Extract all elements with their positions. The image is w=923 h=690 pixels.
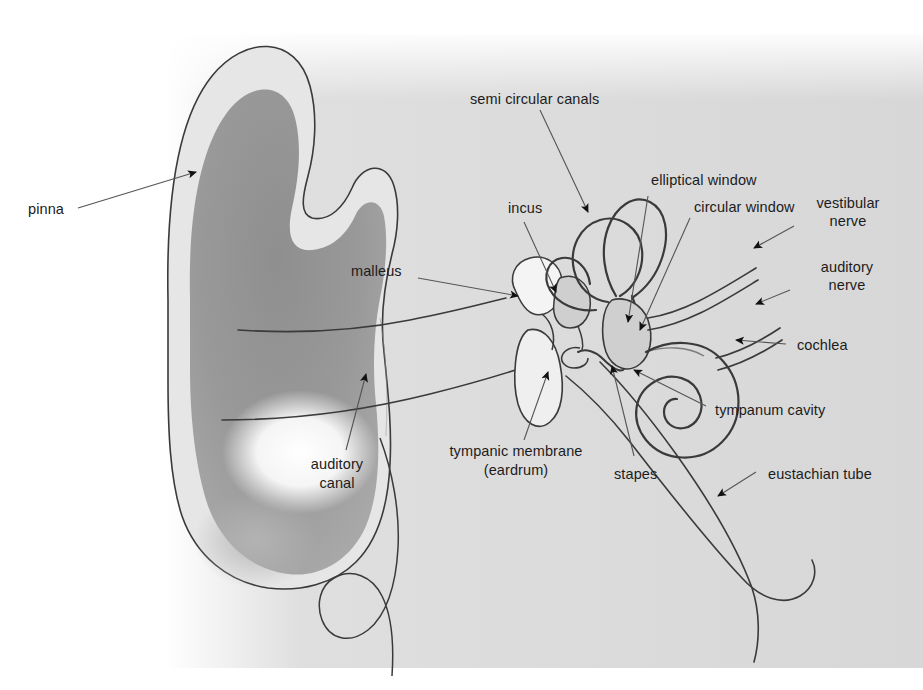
label-auditory-nerve-line1: auditory <box>821 259 874 275</box>
label-tympanum-cavity: tympanum cavity <box>715 402 826 418</box>
ear-anatomy-figure: pinna semi circular canals incus malleus… <box>0 0 923 690</box>
ear-diagram-svg: pinna semi circular canals incus malleus… <box>0 0 923 690</box>
label-incus: incus <box>508 200 542 216</box>
label-pinna: pinna <box>28 201 65 217</box>
label-cochlea: cochlea <box>797 337 849 353</box>
label-elliptical-window: elliptical window <box>651 172 757 188</box>
label-vestibular-nerve-line1: vestibular <box>816 195 879 211</box>
label-tympanic-membrane-line1: tympanic membrane <box>449 443 582 459</box>
head-tissue-background <box>0 0 923 690</box>
lobe-shading <box>194 492 318 588</box>
label-semi-circular-canals: semi circular canals <box>470 91 599 107</box>
label-vestibular-nerve-line2: nerve <box>830 213 867 229</box>
label-auditory-nerve-line2: nerve <box>829 277 866 293</box>
label-auditory-canal-line1: auditory <box>311 456 364 472</box>
label-stapes: stapes <box>614 466 657 482</box>
label-circular-window: circular window <box>694 199 795 215</box>
label-auditory-canal-line2: canal <box>319 475 354 491</box>
label-malleus: malleus <box>351 263 402 279</box>
label-eustachian-tube: eustachian tube <box>768 466 872 482</box>
label-tympanic-membrane-line2: (eardrum) <box>484 462 549 478</box>
incus-body <box>554 276 591 328</box>
